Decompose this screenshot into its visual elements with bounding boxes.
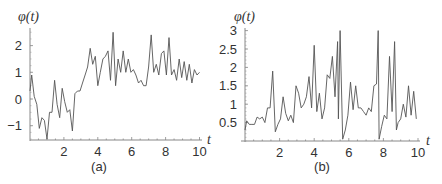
x-tick-label: 8: [162, 144, 169, 159]
y-tick-label: 2: [15, 38, 22, 53]
chart-b-series-line: [245, 31, 416, 140]
chart-b: 2468100.511.522.53 φ(t) t (b): [219, 9, 431, 174]
y-tick-label: −1: [7, 118, 22, 133]
y-tick-label: 2.5: [219, 42, 237, 57]
x-tick-label: 10: [192, 144, 206, 159]
chart-a-y-label: φ(t): [18, 9, 39, 25]
chart-a-panel-label: (a): [91, 159, 107, 174]
chart-a-series-line: [30, 32, 200, 139]
x-tick-label: 8: [380, 145, 387, 160]
x-tick-label: 10: [411, 145, 425, 160]
chart-a: 246810−1012 φ(t) t (a): [7, 9, 212, 174]
chart-b-panel-label: (b): [314, 159, 330, 174]
chart-a-tick-labels: 246810−1012: [7, 38, 207, 159]
chart-b-y-label: φ(t): [234, 9, 255, 25]
y-tick-label: 2: [230, 60, 237, 75]
y-tick-label: 1.5: [219, 78, 237, 93]
x-tick-label: 6: [128, 144, 135, 159]
x-tick-label: 2: [276, 145, 283, 160]
y-tick-label: 0: [15, 92, 22, 107]
chart-b-x-label: t: [426, 133, 431, 148]
x-tick-label: 6: [345, 145, 352, 160]
y-tick-label: 0.5: [219, 115, 237, 130]
chart-b-ticks: [245, 31, 418, 141]
y-tick-label: 1: [15, 65, 22, 80]
x-tick-label: 2: [60, 144, 67, 159]
figure: 246810−1012 φ(t) t (a) 2468100.511.522.5…: [0, 0, 442, 184]
y-tick-label: 3: [230, 23, 237, 38]
x-tick-label: 4: [94, 144, 101, 159]
y-tick-label: 1: [230, 97, 237, 112]
chart-a-x-label: t: [207, 132, 212, 147]
x-tick-label: 4: [311, 145, 318, 160]
